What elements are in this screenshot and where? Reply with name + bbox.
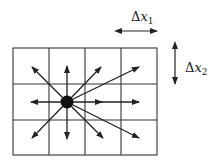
center-node — [61, 96, 74, 109]
dx1-label: Δx1 — [131, 9, 153, 26]
dx2-dimension: Δx2 — [175, 48, 207, 84]
lattice-stencil-diagram: Δx1 Δx2 — [0, 0, 219, 168]
dx2-label: Δx2 — [185, 60, 207, 77]
dx1-dimension: Δx1 — [121, 9, 157, 31]
